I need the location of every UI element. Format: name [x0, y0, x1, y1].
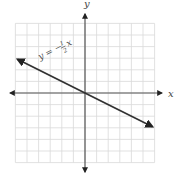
coordinate-plane: y x y = − 1 2 x: [0, 0, 176, 180]
x-axis-label: x: [168, 88, 174, 99]
y-axis-label: y: [83, 0, 90, 9]
equation-label: y = − 1 2 x: [35, 36, 75, 66]
